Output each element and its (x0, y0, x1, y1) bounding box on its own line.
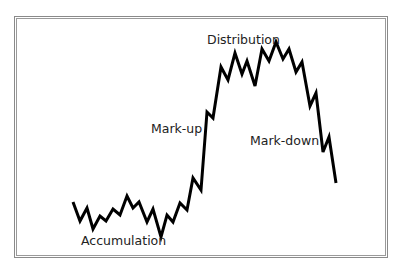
market-cycle-chart: Accumulation Mark-up Distribution Mark-d… (0, 0, 402, 273)
label-markdown: Mark-down (250, 133, 319, 148)
label-accumulation: Accumulation (81, 233, 166, 248)
label-distribution: Distribution (207, 32, 280, 47)
label-markup: Mark-up (151, 121, 202, 136)
